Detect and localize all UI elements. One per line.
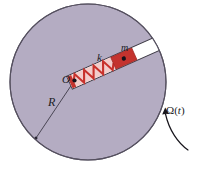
physics-diagram: O k m R Ω(t) (0, 0, 201, 173)
label-spring-constant: k (97, 52, 102, 63)
diagram-canvas (0, 0, 201, 173)
label-pivot-O: O (62, 74, 70, 85)
disk-center-marker (72, 78, 76, 82)
label-mass: m (121, 43, 128, 53)
omega-symbol: Ω (166, 104, 174, 116)
omega-paren-close: ) (181, 104, 185, 116)
label-radius: R (48, 96, 55, 108)
label-angular-velocity: Ω(t) (166, 105, 185, 116)
